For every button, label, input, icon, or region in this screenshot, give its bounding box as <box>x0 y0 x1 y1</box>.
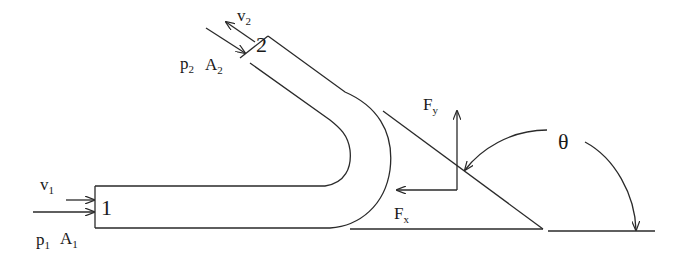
v2-sub: 2 <box>246 15 252 27</box>
fy-label: Fy <box>423 96 438 113</box>
pipe-inner-wall <box>95 63 350 186</box>
v1-label: v1 <box>40 176 54 193</box>
pipe-bend-diagram: v1 1 p1 A1 v2 2 p2 A2 Fy Fx θ <box>0 0 691 266</box>
section-1-label: 1 <box>101 197 112 219</box>
A1-base: A <box>60 229 72 248</box>
section-2-label: 2 <box>256 34 267 56</box>
p1-sub: 1 <box>45 239 51 251</box>
p2-sub: 2 <box>189 63 195 75</box>
p1-label: p1 <box>36 231 50 248</box>
p2-label: p2 <box>180 55 194 72</box>
theta-arc-right <box>585 142 636 230</box>
v1-sub: 1 <box>49 184 55 196</box>
fx-sub: x <box>403 213 409 225</box>
A2-base: A <box>205 55 217 74</box>
v1-base: v <box>40 175 49 194</box>
v2-label: v2 <box>237 7 251 24</box>
theta-label: θ <box>558 131 569 153</box>
A1-sub: 1 <box>72 238 78 250</box>
fx-label: Fx <box>394 205 409 222</box>
fy-sub: y <box>432 104 438 116</box>
v2-base: v <box>237 6 246 25</box>
pipe-outer-wall <box>95 36 391 228</box>
theta-arc-left <box>465 130 547 170</box>
A2-label: A2 <box>205 56 223 73</box>
p2-base: p <box>180 54 189 73</box>
A2-sub: 2 <box>217 64 223 76</box>
A1-label: A1 <box>60 230 78 247</box>
p1-base: p <box>36 230 45 249</box>
diagram-graphics <box>0 0 691 266</box>
